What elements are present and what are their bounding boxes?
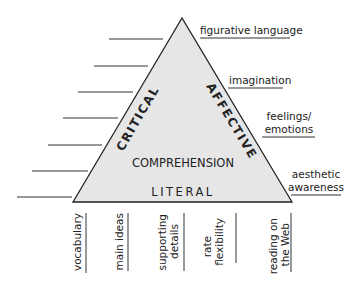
comprehension-triangle bbox=[73, 18, 292, 202]
right-label-figurative-language: figurative language bbox=[200, 24, 303, 36]
bottom-label-main-ideas: main ideas bbox=[113, 213, 125, 271]
bottom-label-flexibility: flexibility bbox=[213, 218, 225, 266]
bottom-label-the-web: the Web bbox=[279, 223, 291, 267]
comprehension-label: COMPREHENSION bbox=[132, 156, 234, 170]
right-label-emotions: emotions bbox=[265, 123, 314, 135]
bottom-label-vocabulary: vocabulary bbox=[71, 213, 83, 271]
comprehension-triangle-diagram: CRITICAL AFFECTIVE COMPREHENSION LITERAL… bbox=[0, 0, 359, 285]
bottom-label-supporting: supporting bbox=[156, 214, 168, 271]
bottom-label-reading-on: reading on bbox=[267, 218, 279, 274]
right-label-feelings: feelings/ bbox=[267, 110, 312, 122]
bottom-label-rate: rate bbox=[201, 236, 213, 257]
literal-label: LITERAL bbox=[151, 185, 214, 199]
right-label-aesthetic: aesthetic bbox=[292, 168, 341, 180]
right-label-awareness: awareness bbox=[288, 181, 344, 193]
bottom-label-details: details bbox=[168, 224, 180, 259]
right-label-imagination: imagination bbox=[229, 74, 291, 86]
bottom-labels: vocabulary main ideas supporting details… bbox=[71, 213, 291, 274]
